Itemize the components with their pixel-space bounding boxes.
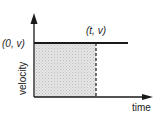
shaded-area bbox=[35, 43, 96, 97]
y-axis-label: velocity bbox=[17, 62, 28, 95]
x-axis-label: time bbox=[132, 102, 151, 113]
start-point-label: (0, v) bbox=[2, 38, 25, 49]
end-point-label: (t, v) bbox=[86, 25, 106, 36]
x-axis-arrow-icon bbox=[142, 94, 153, 100]
velocity-time-diagram: (0, v) (t, v) time velocity bbox=[0, 0, 168, 116]
y-axis-arrow-icon bbox=[31, 13, 38, 24]
